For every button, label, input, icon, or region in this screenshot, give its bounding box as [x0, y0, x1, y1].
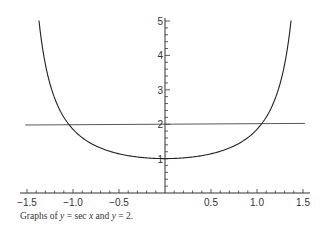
x-tick-label: −1.5 — [17, 197, 37, 208]
y-tick-label: 2 — [157, 119, 163, 130]
figure-caption: Graphs of y = sec x and y = 2. — [20, 211, 133, 221]
y-tick-label: 5 — [157, 16, 163, 27]
x-tick-label: −0.5 — [109, 197, 129, 208]
x-tick-label: 0.5 — [204, 197, 218, 208]
x-tick-label: 1.5 — [296, 197, 310, 208]
y-tick-label: 3 — [157, 85, 163, 96]
y-tick-label: 4 — [157, 50, 163, 61]
chart: −1.5−1.0−0.50.51.01.512345 — [0, 0, 324, 230]
x-tick-label: 1.0 — [250, 197, 264, 208]
x-tick-label: −1.0 — [63, 197, 83, 208]
axes — [20, 18, 310, 193]
